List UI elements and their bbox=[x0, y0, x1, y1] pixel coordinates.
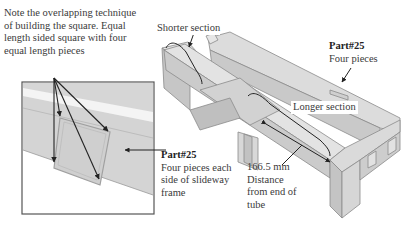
distance-line: 166.5 mm bbox=[247, 161, 297, 174]
part-top-label: Part#25 Four pieces bbox=[329, 40, 378, 65]
distance-label: 166.5 mm Distance from end of tube bbox=[247, 161, 297, 211]
part-bottom-line: side of slideway bbox=[161, 174, 232, 187]
part-bottom-line: Four pieces each bbox=[161, 162, 232, 175]
inset-note-line: length sided square with four bbox=[4, 32, 136, 45]
part-bottom-line: frame bbox=[161, 187, 232, 200]
distance-line: tube bbox=[247, 199, 297, 212]
part-bottom-label: Part#25 Four pieces each side of slidewa… bbox=[161, 149, 232, 199]
part-top-desc: Four pieces bbox=[329, 53, 378, 66]
part-top-arrow bbox=[342, 68, 351, 82]
inset-note-line: of building the square. Equal bbox=[4, 20, 136, 33]
inset-note-line: equal length pieces bbox=[4, 45, 136, 58]
inset-detail bbox=[22, 82, 154, 214]
part-top-title: Part#25 bbox=[329, 40, 378, 53]
longer-section-label: Longer section bbox=[291, 101, 358, 114]
part-bottom-title: Part#25 bbox=[161, 149, 232, 162]
distance-line: Distance bbox=[247, 174, 297, 187]
inset-note-line: Note the overlapping technique bbox=[4, 7, 136, 20]
shorter-section-label: Shorter section bbox=[157, 22, 220, 35]
distance-line: from end of bbox=[247, 186, 297, 199]
inset-note: Note the overlapping technique of buildi… bbox=[4, 7, 136, 57]
